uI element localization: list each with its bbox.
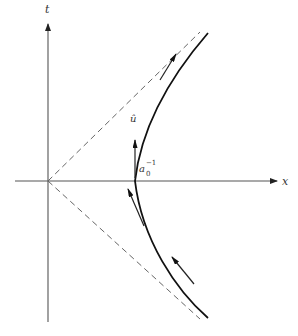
t-axis-label: t — [45, 3, 50, 16]
svg-text:0: 0 — [146, 170, 150, 178]
light-cone-lower — [48, 181, 200, 319]
svg-text:a: a — [139, 163, 145, 174]
spacetime-diagram: t x û a 0 −1 — [0, 0, 298, 336]
tangent-arrow-below-axis — [128, 189, 144, 226]
tangent-arrow-upper — [160, 54, 176, 80]
x-axis-label: x — [282, 175, 289, 188]
light-cone-upper — [48, 32, 200, 181]
tangent-arrow-lower — [172, 257, 194, 284]
svg-text:−1: −1 — [146, 159, 156, 167]
unit-vector-label: û — [130, 113, 136, 124]
vertex-distance-label: a 0 −1 — [139, 159, 156, 178]
